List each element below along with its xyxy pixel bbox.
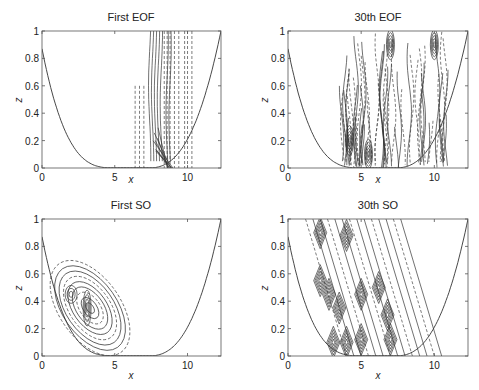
plot-area: 051000.20.40.60.81 [271, 214, 468, 371]
y-tick-label: 0 [279, 351, 285, 362]
plot-area: 051000.20.40.60.81 [25, 26, 221, 183]
bathymetry-curve [42, 31, 221, 168]
y-tick-label: 0.8 [271, 241, 285, 252]
x-tick-label: 0 [285, 360, 291, 371]
x-tick-label: 10 [182, 172, 194, 183]
y-tick-label: 0.8 [271, 53, 285, 64]
y-axis-label: z [13, 98, 24, 104]
x-axis-label: x [128, 174, 135, 185]
y-tick-label: 0.2 [271, 136, 285, 147]
y-tick-label: 0 [279, 163, 285, 174]
y-tick-label: 0.6 [271, 269, 285, 280]
y-tick-label: 0.4 [25, 296, 39, 307]
y-tick-label: 0.4 [271, 108, 285, 119]
y-tick-label: 0.4 [271, 296, 285, 307]
y-axis-label: z [259, 98, 270, 104]
y-tick-label: 0 [33, 351, 39, 362]
axes-frame [288, 219, 468, 356]
y-tick-label: 0.6 [25, 81, 39, 92]
y-tick-label: 0.6 [25, 269, 39, 280]
y-axis-label: z [259, 286, 270, 292]
plot-area: 051000.20.40.60.81 [25, 214, 221, 371]
x-tick-label: 0 [39, 360, 45, 371]
y-tick-label: 0.2 [25, 136, 39, 147]
y-tick-label: 0.8 [25, 241, 39, 252]
panel-title: First EOF [107, 11, 154, 23]
y-tick-label: 0.2 [25, 324, 39, 335]
y-tick-label: 0 [33, 163, 39, 174]
y-axis-label: z [13, 286, 24, 292]
panel-title: 30th EOF [354, 11, 401, 23]
axes-frame [42, 219, 221, 356]
x-axis-label: x [375, 370, 382, 381]
y-tick-label: 0.8 [25, 53, 39, 64]
y-tick-label: 1 [279, 214, 285, 225]
x-tick-label: 10 [182, 360, 194, 371]
x-tick-label: 10 [429, 360, 441, 371]
x-tick-label: 0 [285, 172, 291, 183]
x-tick-label: 0 [39, 172, 45, 183]
y-tick-label: 0.4 [25, 108, 39, 119]
x-tick-label: 5 [112, 172, 118, 183]
bathymetry-curve [42, 219, 221, 356]
x-tick-label: 5 [358, 360, 364, 371]
y-tick-label: 0.2 [271, 324, 285, 335]
panel-first-so: First SO x z 051000.20.40.60.81 [13, 199, 221, 381]
x-tick-label: 10 [429, 172, 441, 183]
panel-title: 30th SO [358, 199, 399, 211]
x-tick-label: 5 [358, 172, 364, 183]
y-tick-label: 1 [33, 26, 39, 37]
bathymetry-curve [288, 219, 468, 356]
panel-30th-eof: 30th EOF x z 051000.20.40.60.81 [259, 11, 468, 185]
plot-area: 051000.20.40.60.81 [271, 26, 468, 183]
panel-title: First SO [111, 199, 152, 211]
x-tick-label: 5 [112, 360, 118, 371]
panel-30th-so: 30th SO x z 051000.20.40.60.81 [259, 199, 468, 381]
panel-first-eof: First EOF x z 051000.20.40.60.81 [13, 11, 221, 185]
x-axis-label: x [128, 370, 135, 381]
y-tick-label: 1 [279, 26, 285, 37]
figure: First EOF x z 051000.20.40.60.81 30th EO… [0, 0, 479, 390]
y-tick-label: 1 [33, 214, 39, 225]
y-tick-label: 0.6 [271, 81, 285, 92]
x-axis-label: x [375, 174, 382, 185]
axes-frame [42, 31, 221, 168]
